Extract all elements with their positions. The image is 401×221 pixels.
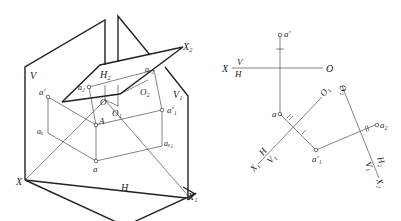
label-H2-top: H₂ — [375, 154, 388, 167]
left-pictorial-diagram: V H H₂ V₁ X X₁ X₂ a′ a a′₁ a₂ aₓ aₓ₁ aₓ₂… — [15, 16, 198, 221]
point-a-prime — [278, 33, 282, 37]
label-a-prime: a′ — [284, 29, 292, 39]
axis-O-O1 — [105, 100, 118, 106]
point-a — [278, 112, 282, 116]
label-O1: O₁ — [112, 108, 122, 118]
label-X1: X₁ — [187, 191, 198, 202]
label-H2: H₂ — [99, 69, 111, 80]
label-O: O — [326, 63, 333, 74]
point-a-prime — [46, 95, 50, 99]
label-X2: X₂ — [374, 176, 387, 188]
label-O: O — [100, 97, 107, 107]
label-V-top: V — [237, 57, 244, 67]
label-V1: V₁ — [173, 89, 183, 100]
proj-ax-a — [48, 133, 96, 161]
label-H: H — [120, 182, 129, 193]
point-a2 — [87, 85, 91, 89]
point-a1-prime — [160, 108, 164, 112]
label-ax1: aₓ₁ — [164, 139, 173, 148]
label-X: X — [15, 176, 23, 187]
right-orthographic-diagram: X V H O a′ a O₁ O₂ a′₁ a₂ X₁ H V₁ H₂ V₁ … — [221, 29, 388, 189]
proj-ax2-a1prime — [154, 70, 162, 110]
point-a — [94, 159, 98, 163]
tick-a-1 — [287, 114, 291, 118]
label-a-prime: a′ — [39, 87, 47, 97]
v1-plane-outline — [165, 67, 188, 200]
projector-a-a1prime — [280, 114, 316, 150]
label-O2: O₂ — [140, 87, 150, 97]
label-a: a — [272, 109, 277, 119]
label-a1-prime: a′₁ — [167, 105, 177, 115]
label-H-bottom: H — [234, 69, 242, 79]
label-a1-prime: a′₁ — [312, 154, 322, 164]
point-a2 — [375, 123, 379, 127]
label-a: a — [93, 164, 98, 174]
proj-A-a1prime — [96, 110, 162, 125]
label-O2: O₂ — [337, 83, 350, 95]
label-X2: X₂ — [182, 41, 193, 52]
proj-a-ax1 — [96, 146, 162, 161]
label-O1: O₁ — [318, 84, 332, 98]
h2-plane-outline — [62, 47, 183, 102]
label-X1: X₁ — [247, 160, 261, 174]
x-axis-line — [25, 180, 186, 198]
h-plane-outline — [25, 180, 195, 221]
label-a2: a₂ — [380, 120, 388, 130]
tick-a1prime — [302, 130, 306, 134]
label-X: X — [221, 63, 229, 74]
label-ax: aₓ — [37, 127, 43, 136]
label-ax2: aₓ₂ — [145, 65, 154, 74]
label-a2: a₂ — [78, 83, 85, 92]
proj-A-a2 — [89, 87, 96, 125]
label-V1-bottom-2: V₁ — [363, 160, 375, 172]
label-A: A — [98, 116, 105, 126]
tick-a-2 — [289, 116, 293, 120]
label-V: V — [30, 70, 38, 81]
point-a1-prime — [314, 148, 318, 152]
point-A — [94, 123, 98, 127]
projection-diagram: V H H₂ V₁ X X₁ X₂ a′ a a′₁ a₂ aₓ aₓ₁ aₓ₂… — [0, 0, 401, 221]
